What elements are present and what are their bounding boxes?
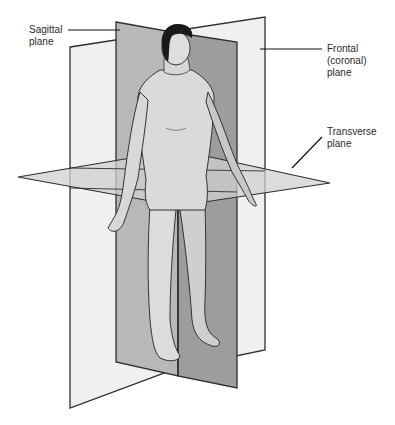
transverse-label-line-2: plane: [327, 138, 377, 150]
transverse-label-line-1: Transverse: [327, 126, 377, 138]
frontal-label-line-1: Frontal: [327, 43, 366, 55]
transverse-leader-line: [292, 137, 322, 168]
transverse-plane-label: Transverse plane: [327, 126, 377, 150]
frontal-label-line-2: (coronal): [327, 55, 366, 67]
sagittal-label-line-2: plane: [29, 36, 62, 48]
sagittal-plane-label: Sagittal plane: [29, 24, 62, 48]
sagittal-label-line-1: Sagittal: [29, 24, 62, 36]
frontal-plane-label: Frontal (coronal) plane: [327, 43, 366, 79]
frontal-label-line-3: plane: [327, 67, 366, 79]
